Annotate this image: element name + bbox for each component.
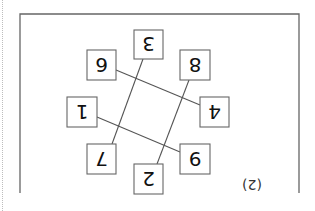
line-3-7 bbox=[112, 59, 143, 144]
box-value: 7 bbox=[95, 147, 108, 171]
box-value: 6 bbox=[95, 53, 108, 77]
box-value: 4 bbox=[208, 100, 221, 124]
box-upper-left: 6 bbox=[87, 50, 116, 80]
box-value: 1 bbox=[76, 100, 89, 124]
box-upper-right: 8 bbox=[180, 50, 210, 80]
box-right: 4 bbox=[200, 97, 229, 127]
diagram-canvas: 3 6 8 1 4 7 9 2 (2) bbox=[0, 0, 315, 211]
box-lower-left: 7 bbox=[87, 144, 116, 174]
figure-label: (2) bbox=[242, 177, 262, 193]
box-value: 9 bbox=[189, 147, 202, 171]
box-lower-right: 9 bbox=[180, 144, 210, 174]
box-value: 2 bbox=[142, 167, 155, 191]
box-value: 3 bbox=[142, 32, 155, 56]
box-bottom: 2 bbox=[134, 164, 163, 194]
box-top: 3 bbox=[134, 30, 163, 59]
box-value: 8 bbox=[189, 53, 202, 77]
box-left: 1 bbox=[67, 97, 97, 127]
